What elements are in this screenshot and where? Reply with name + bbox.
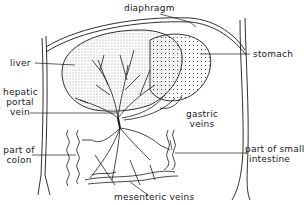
label-liver: liver — [10, 59, 31, 68]
label-small-intestine-line2: intestine — [249, 155, 290, 164]
mesenteric-vein-lines — [82, 128, 178, 185]
label-mesenteric-veins: mesenteric veins — [114, 193, 194, 202]
label-hepatic-portal-vein-line2: portal — [3, 98, 37, 107]
diagram-drawing — [0, 0, 304, 205]
label-diaphragm: diaphragm — [124, 4, 175, 13]
label-gastric-veins-line2: veins — [185, 120, 219, 129]
label-gastric-veins-line1: gastric — [185, 110, 219, 119]
portal-vein-trunk — [118, 118, 120, 128]
label-part-of-colon-line1: part of — [2, 146, 36, 155]
label-small-intestine-line1: part of small — [245, 145, 304, 154]
hepatic-portal-diagram: diaphragm stomach liver hepatic portal v… — [0, 0, 304, 205]
label-stomach: stomach — [253, 50, 293, 59]
colon-outline — [67, 130, 80, 186]
label-part-of-colon-line2: colon — [2, 156, 36, 165]
label-hepatic-portal-vein-line3: vein — [3, 108, 37, 117]
label-hepatic-portal-vein-line1: hepatic — [3, 88, 37, 97]
